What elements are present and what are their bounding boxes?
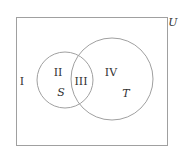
set-s-label: S (57, 87, 65, 98)
venn-diagram-shapes (0, 0, 188, 152)
universe-rectangle (17, 18, 168, 146)
region-iii-label: III (74, 76, 87, 87)
region-ii-label: II (54, 67, 63, 78)
region-iv-label: IV (105, 67, 117, 78)
set-t-label: T (122, 88, 129, 99)
region-i-label: I (20, 76, 24, 87)
venn-diagram: U I II III IV S T (0, 0, 188, 152)
universe-label: U (168, 17, 177, 28)
